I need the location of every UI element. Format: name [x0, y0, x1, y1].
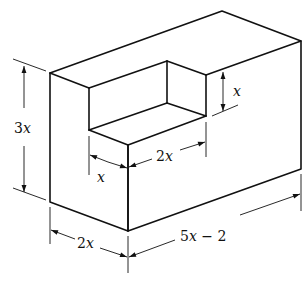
dim-arrow-2x-base-left	[51, 230, 75, 239]
ext-line-notch-floor	[212, 105, 238, 116]
dim-height: 3x	[13, 59, 46, 200]
block-diagram: 3x x x 2x 2x 5x − 2	[0, 0, 306, 287]
dim-arrow-2x-right	[180, 142, 205, 150]
notch-floor-back-edge	[89, 103, 167, 130]
dim-arrow-2x-base-right	[100, 248, 127, 257]
block-outline	[50, 11, 301, 231]
dim-arrow-x-left	[90, 155, 108, 162]
notch-floor-left-edge	[89, 130, 128, 145]
dim-notch-floor: x 2x	[89, 122, 206, 185]
ext-line-bottom	[13, 188, 46, 200]
label-2x-notch: 2x	[156, 148, 173, 164]
dim-arrow-x-right	[108, 162, 127, 168]
label-x-depth: x	[233, 83, 241, 99]
label-2x-base: 2x	[77, 235, 94, 251]
dim-arrow-5x-right	[240, 194, 300, 215]
left-top-edge	[50, 73, 89, 88]
label-5x-minus-2: 5x − 2	[180, 228, 226, 244]
dim-arrow-2x-left	[129, 159, 152, 167]
notch-floor-front-edge	[128, 116, 206, 145]
notch-top-back-edge	[89, 61, 167, 88]
dim-base: 2x 5x − 2	[50, 174, 301, 273]
ext-line-top	[13, 59, 46, 71]
notch-floor-right-edge	[167, 103, 206, 116]
top-face-edges	[50, 11, 301, 75]
notch-top-right-edge	[167, 61, 206, 75]
dim-notch-depth: x	[212, 72, 241, 116]
notch	[89, 61, 206, 231]
dim-arrow-5x-left	[129, 240, 175, 257]
label-3x: 3x	[14, 120, 31, 136]
label-x-width: x	[97, 169, 105, 185]
